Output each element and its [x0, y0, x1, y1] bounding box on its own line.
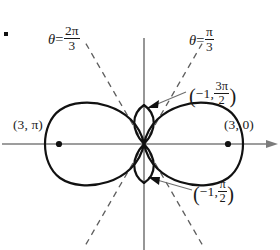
fraction-denominator: 3: [64, 39, 80, 53]
equals-sign-left: =: [55, 31, 63, 47]
equals-sign-right: =: [196, 32, 204, 48]
radius-value-upper: −1,: [196, 86, 214, 101]
fraction-numerator: 2π: [64, 24, 80, 39]
fraction-pi-over-3: π3: [205, 25, 214, 54]
leader-line-lower-point: [157, 180, 192, 190]
point-label-minus1-3pi-over-2: (−1,3π2): [189, 80, 236, 107]
fraction-pi-over-2: π2: [218, 178, 226, 205]
fraction-2pi-over-3: 2π3: [64, 24, 80, 53]
left-paren-upper: (: [189, 86, 196, 106]
fraction-denominator: 2: [214, 94, 229, 107]
theta-label-pi-over-3: θ=π3: [189, 25, 214, 54]
leader-line-upper-point: [155, 92, 186, 105]
polar-graph-figure: θ=2π3 θ=π3 (−1,3π2) (−1,π2) (3, π) (3, 0…: [0, 0, 280, 250]
left-paren-lower: (: [193, 184, 200, 204]
fraction-numerator: π: [218, 178, 226, 192]
right-paren-upper: ): [230, 86, 237, 106]
fraction-3pi-over-2: 3π2: [214, 80, 229, 107]
point-marker-3-pi: [56, 141, 62, 147]
x-axis-arrowhead: [266, 140, 278, 148]
radius-value-lower: −1,: [200, 184, 218, 199]
fraction-denominator: 3: [205, 40, 214, 54]
fraction-numerator: π: [205, 25, 214, 40]
right-paren-lower: ): [227, 184, 234, 204]
fraction-numerator: 3π: [214, 80, 229, 94]
theta-label-2pi-over-3: θ=2π3: [48, 24, 80, 53]
point-label-minus1-pi-over-2: (−1,π2): [193, 178, 234, 205]
leader-arrowhead-lower: [148, 177, 160, 185]
point-marker-3-0: [225, 141, 231, 147]
point-label-3-pi: (3, π): [13, 118, 43, 132]
leader-arrowhead-upper: [147, 100, 159, 108]
point-label-3-0: (3, 0): [224, 118, 254, 132]
fraction-denominator: 2: [218, 192, 226, 205]
